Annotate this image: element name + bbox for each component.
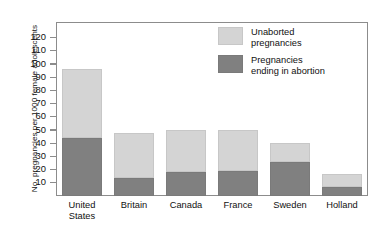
legend-label-line2: ending in abortion	[251, 66, 325, 76]
legend-label-line1: Pregnancies	[251, 55, 303, 65]
y-tick-label: 100	[30, 58, 46, 69]
bar-segment-unaborted	[270, 143, 310, 161]
x-label-line1: Canada	[170, 200, 203, 210]
legend-label-line1: Unaborted	[251, 27, 294, 37]
legend-label-line2: pregnancies	[251, 38, 302, 48]
y-tick-label: 120	[30, 31, 46, 42]
bar-britain	[114, 133, 154, 196]
bar-segment-unaborted	[218, 130, 258, 171]
x-label-united-states: UnitedStates	[56, 200, 108, 223]
legend-label: Pregnanciesending in abortion	[251, 55, 325, 76]
legend-swatch	[218, 27, 243, 45]
x-label-line1: France	[224, 200, 253, 210]
legend-swatch	[218, 55, 243, 73]
x-label-france: France	[212, 200, 264, 211]
bar-segment-abortion	[218, 171, 258, 196]
stacked-bar-chart: No. pregnancies per 1000 female adolesce…	[0, 0, 382, 247]
bar-segment-abortion	[114, 178, 154, 196]
y-tick-label: 50	[36, 124, 46, 135]
bar-segment-abortion	[62, 138, 102, 196]
y-tick-label: 90	[36, 71, 46, 82]
bar-segment-abortion	[166, 172, 206, 196]
bar-segment-abortion	[270, 162, 310, 196]
bar-united-states	[62, 69, 102, 196]
y-tick-label: 80	[36, 84, 46, 95]
x-label-canada: Canada	[160, 200, 212, 211]
x-label-line1: Britain	[121, 200, 147, 210]
y-tick-label: 40	[36, 137, 46, 148]
x-label-line1: Holland	[326, 200, 358, 210]
bar-segment-unaborted	[114, 133, 154, 178]
bar-canada	[166, 130, 206, 196]
x-label-line1: United	[69, 200, 96, 210]
bar-france	[218, 130, 258, 196]
legend-item-unaborted: Unabortedpregnancies	[218, 27, 358, 48]
bar-sweden	[270, 143, 310, 196]
bar-segment-abortion	[322, 187, 362, 196]
x-label-britain: Britain	[108, 200, 160, 211]
bar-segment-unaborted	[322, 174, 362, 187]
x-label-line1: Sweden	[273, 200, 307, 210]
y-tick-label: 60	[36, 110, 46, 121]
bar-holland	[322, 174, 362, 196]
x-label-sweden: Sweden	[264, 200, 316, 211]
y-tick-label: 20	[36, 163, 46, 174]
y-tick-label: 70	[36, 97, 46, 108]
bar-segment-unaborted	[166, 130, 206, 172]
y-tick-label: 110	[31, 44, 46, 55]
y-tick-label: 10	[36, 176, 46, 187]
x-label-line2: States	[56, 211, 108, 222]
y-tick-label: 30	[36, 150, 46, 161]
chart-legend: UnabortedpregnanciesPregnanciesending in…	[218, 27, 358, 83]
x-label-holland: Holland	[316, 200, 368, 211]
x-axis-labels: UnitedStatesBritainCanadaFranceSwedenHol…	[56, 200, 368, 244]
bar-segment-unaborted	[62, 69, 102, 138]
legend-label: Unabortedpregnancies	[251, 27, 302, 48]
legend-item-abortion: Pregnanciesending in abortion	[218, 55, 358, 76]
